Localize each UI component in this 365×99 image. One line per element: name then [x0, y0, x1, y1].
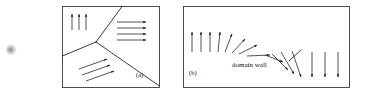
panel-b [184, 7, 350, 88]
panel-b-caption: (b) [189, 70, 197, 77]
figure-canvas [0, 0, 365, 99]
domain-wall-label: domain wall [232, 62, 267, 69]
figure-root: (a) (b) domain wall [0, 0, 365, 99]
panel-b-frame [184, 7, 350, 88]
panel-a-caption: (a) [136, 72, 143, 79]
panel-a [63, 7, 160, 88]
panel-a-frame [63, 7, 160, 88]
